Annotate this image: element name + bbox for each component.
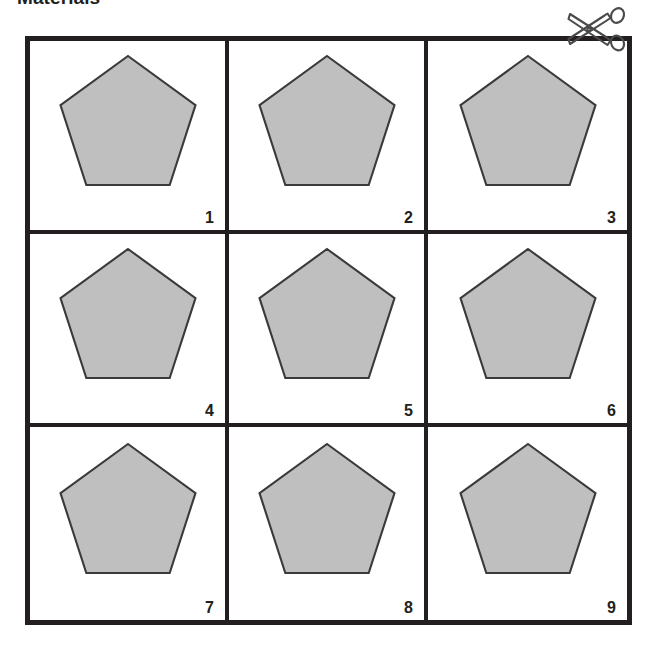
cell-number: 3 [607,210,616,226]
pentagon-shape [428,234,627,423]
pentagon-shape [30,41,225,230]
grid-cell[interactable]: 2 [229,41,428,234]
cell-number: 7 [205,600,214,616]
grid-cell[interactable]: 7 [30,427,229,620]
pentagon-shape [30,427,225,620]
grid-cell[interactable]: 4 [30,234,229,427]
cell-number: 8 [404,600,413,616]
grid-cell[interactable]: 9 [428,427,627,620]
cell-number: 9 [607,600,616,616]
pentagon-shape [229,234,424,423]
grid-cell[interactable]: 1 [30,41,229,234]
grid-cell[interactable]: 3 [428,41,627,234]
cell-number: 1 [205,210,214,226]
cell-number: 4 [205,403,214,419]
pentagon-shape [30,234,225,423]
pentagon-shape [229,41,424,230]
grid-cell[interactable]: 8 [229,427,428,620]
grid-cell[interactable]: 6 [428,234,627,427]
cell-number: 6 [607,403,616,419]
cell-number: 5 [404,403,413,419]
pentagon-shape [428,427,627,620]
pentagon-shape [229,427,424,620]
cell-number: 2 [404,210,413,226]
page-title: Materials [17,0,100,9]
cut-out-grid: 1 2 3 4 5 [25,36,632,625]
grid-cell[interactable]: 5 [229,234,428,427]
pentagon-shape [428,41,627,230]
